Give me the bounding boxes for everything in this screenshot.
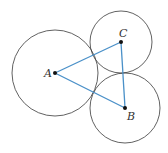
tangent-circles-diagram: A B C: [0, 0, 168, 153]
point-c: [119, 40, 123, 44]
point-a: [53, 71, 57, 75]
label-b: B: [126, 110, 135, 123]
label-c: C: [119, 27, 128, 40]
segment-ac: [55, 42, 121, 73]
segment-cb: [121, 42, 125, 108]
label-a: A: [43, 67, 52, 80]
